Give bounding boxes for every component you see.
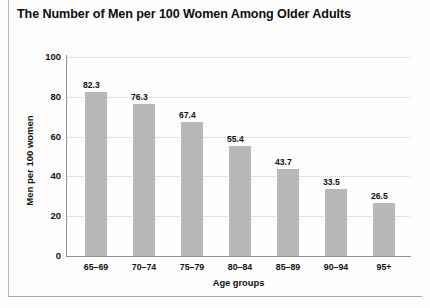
bar-95-plus[interactable] <box>373 203 395 256</box>
y-tick-label-0: 0 <box>22 250 61 261</box>
x-axis-title: Age groups <box>66 278 411 288</box>
y-tick-label-100: 100 <box>22 51 61 62</box>
bar-value-90-94: 33.5 <box>323 177 340 187</box>
plot-area: 100 80 60 40 20 0 Men per 100 women 82.3… <box>0 0 430 308</box>
bar-75-79[interactable] <box>181 122 203 256</box>
x-axis-line <box>66 256 411 257</box>
y-axis-title: Men per 100 women <box>24 101 35 221</box>
gridline-100 <box>67 57 410 58</box>
x-tick-label-90-94: 90–94 <box>313 262 359 272</box>
y-tick-0: 0 <box>22 250 61 262</box>
bar-70-74[interactable] <box>133 104 155 256</box>
bar-value-65-69: 82.3 <box>83 80 100 90</box>
bar-value-70-74: 76.3 <box>131 92 148 102</box>
gridline-80 <box>67 97 410 98</box>
x-tick-label-65-69: 65–69 <box>73 262 119 272</box>
x-tick-label-75-79: 75–79 <box>169 262 215 272</box>
bar-value-80-84: 55.4 <box>227 134 244 144</box>
x-tick-label-80-84: 80–84 <box>217 262 263 272</box>
bar-90-94[interactable] <box>325 189 347 256</box>
bar-85-89[interactable] <box>277 169 299 256</box>
y-axis-line <box>66 55 67 257</box>
y-tick-100: 100 <box>22 51 61 63</box>
bar-80-84[interactable] <box>229 146 251 256</box>
figure-frame: The Number of Men per 100 Women Among Ol… <box>0 0 430 308</box>
bar-value-75-79: 67.4 <box>179 110 196 120</box>
x-tick-label-70-74: 70–74 <box>121 262 167 272</box>
x-tick-label-95-plus: 95+ <box>361 262 407 272</box>
bar-value-85-89: 43.7 <box>275 157 292 167</box>
bar-65-69[interactable] <box>85 92 107 256</box>
bar-value-95-plus: 26.5 <box>371 191 388 201</box>
x-tick-label-85-89: 85–89 <box>265 262 311 272</box>
